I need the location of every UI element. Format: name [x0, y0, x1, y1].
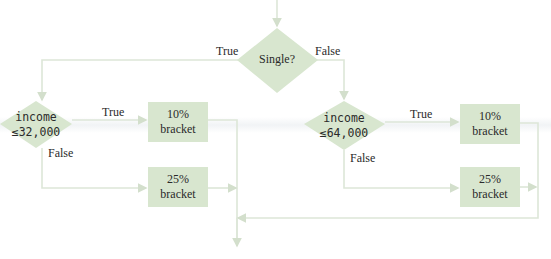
bracket-25-right-label: 25% bracket	[460, 172, 520, 202]
income32-line1: income	[0, 110, 72, 125]
income64-line1: income	[307, 111, 381, 126]
decision-single-label: Single?	[247, 52, 307, 67]
bracket-25-right-pct: 25%	[460, 172, 520, 187]
bracket-25-right-word: bracket	[460, 187, 520, 202]
decision-income64-label: income ≤64,000	[307, 111, 381, 141]
edge-label-income64-true: True	[410, 107, 432, 121]
bracket-10-right-pct: 10%	[460, 109, 520, 124]
bracket-10-right-word: bracket	[460, 124, 520, 139]
bracket-25-left-word: bracket	[148, 187, 208, 202]
edge-label-single-true: True	[216, 44, 238, 58]
decision-income32-label: income ≤32,000	[0, 110, 72, 140]
edge-label-single-false: False	[315, 44, 340, 58]
edge-single-false	[316, 60, 344, 99]
edge-label-income32-true: True	[102, 105, 124, 119]
bracket-25-left-pct: 25%	[148, 172, 208, 187]
edge-label-income32-false: False	[48, 146, 73, 160]
income64-line2: ≤64,000	[307, 126, 381, 141]
edge-merge-left	[208, 120, 237, 240]
bracket-10-left-label: 10% bracket	[148, 107, 208, 137]
bracket-10-right-label: 10% bracket	[460, 109, 520, 139]
edge-label-income64-false: False	[350, 151, 375, 165]
bracket-10-left-word: bracket	[148, 122, 208, 137]
edge-single-true	[42, 60, 238, 100]
bracket-25-left-label: 25% bracket	[148, 172, 208, 202]
income32-line2: ≤32,000	[0, 125, 72, 140]
bracket-10-left-pct: 10%	[148, 107, 208, 122]
